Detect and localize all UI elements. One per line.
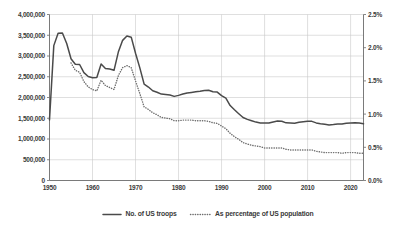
x-axis-tick-label: 1950 (43, 184, 57, 191)
y-axis-left-tick-label: 1,000,000 (18, 135, 46, 143)
x-axis-tick-label: 2000 (258, 184, 272, 191)
x-axis-tick-label: 1960 (86, 184, 100, 191)
x-axis-tick-label: 2010 (301, 184, 315, 191)
chart-canvas: 0500,0001,000,0001,500,0002,000,0002,500… (0, 0, 403, 233)
y-axis-right-labels: 0.0%0.5%1.0%1.5%2.0%2.5% (368, 11, 382, 184)
y-axis-left-tick-label: 4,000,000 (18, 11, 46, 19)
y-axis-right-tick-label: 2.0% (368, 44, 382, 51)
legend-label-2: As percentage of US population (215, 210, 314, 218)
y-axis-left-tick-label: 2,500,000 (18, 73, 46, 81)
x-axis-tick-label: 1970 (129, 184, 143, 191)
y-axis-left-tick-label: 1,500,000 (18, 115, 46, 123)
x-axis-tick-label: 1980 (172, 184, 186, 191)
y-axis-left-labels: 0500,0001,000,0001,500,0002,000,0002,500… (18, 11, 46, 184)
gridlines-group (50, 15, 364, 181)
y-axis-right-tick-label: 2.5% (368, 11, 382, 18)
legend: No. of US troopsAs percentage of US popu… (103, 210, 314, 218)
y-axis-left-tick-label: 0 (42, 177, 46, 184)
y-axis-right-tick-label: 0.5% (368, 144, 382, 151)
y-axis-left-tick-label: 2,000,000 (18, 94, 46, 102)
y-axis-right-tick-label: 1.5% (368, 77, 382, 84)
x-axis-labels: 19501960197019801990200020102020 (43, 184, 358, 191)
series-line-1 (50, 33, 364, 125)
y-axis-right-tick-label: 1.0% (368, 111, 382, 118)
y-axis-left-tick-label: 3,000,000 (18, 52, 46, 60)
y-axis-left-tick-label: 500,000 (23, 156, 46, 164)
x-axis-tick-label: 1990 (215, 184, 229, 191)
y-axis-right-tick-label: 0.0% (368, 177, 382, 184)
x-axis-tick-label: 2020 (344, 184, 358, 191)
y-axis-left-tick-label: 3,500,000 (18, 32, 46, 40)
legend-label-1: No. of US troops (126, 210, 178, 218)
series-group (50, 33, 364, 153)
troop-levels-chart: 0500,0001,000,0001,500,0002,000,0002,500… (0, 0, 403, 233)
